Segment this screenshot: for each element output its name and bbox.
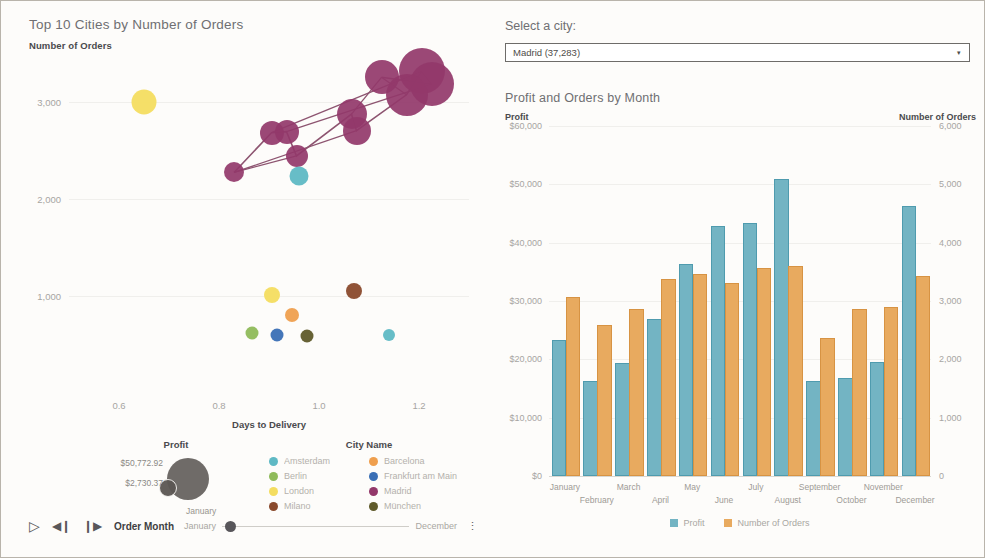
city-legend-item[interactable]: Barcelona [369, 456, 469, 466]
city-color-swatch-icon [369, 487, 378, 496]
bar-legend-item[interactable]: Number of Orders [724, 518, 809, 528]
scatter-bubble[interactable] [132, 90, 157, 115]
city-color-swatch-icon [269, 502, 278, 511]
profit-bar[interactable] [870, 362, 885, 476]
city-legend-label: München [384, 501, 421, 511]
scatter-bubble[interactable] [264, 287, 280, 303]
orders-bar[interactable] [725, 283, 740, 476]
bar-right-tick-label: 1,000 [939, 413, 962, 423]
playback-slider-track[interactable] [222, 520, 409, 532]
scatter-bubble[interactable] [300, 329, 313, 342]
orders-bar[interactable] [884, 307, 899, 476]
city-legend-item[interactable]: München [369, 501, 469, 511]
city-legend-item[interactable]: Milano [269, 501, 369, 511]
scatter-bubble[interactable] [245, 326, 258, 339]
bar-left-tick-label: $60,000 [509, 121, 542, 131]
profit-bar[interactable] [647, 319, 662, 476]
bar-legend-label: Number of Orders [737, 518, 809, 528]
bar-right-axis-title: Number of Orders [899, 112, 976, 122]
scatter-bubble[interactable] [285, 308, 299, 322]
step-forward-icon[interactable]: ❙▶ [83, 520, 102, 532]
bar-right-tick-label: 0 [939, 471, 944, 481]
profit-bar[interactable] [774, 179, 789, 476]
step-backward-icon[interactable]: ◀❙ [52, 520, 71, 532]
bar-month-label: July [748, 482, 763, 492]
profit-bar[interactable] [902, 206, 917, 476]
city-color-swatch-icon [369, 472, 378, 481]
bar-month-label: September [799, 482, 841, 492]
bar-month-label: November [864, 482, 903, 492]
orders-bar[interactable] [566, 297, 581, 476]
city-color-swatch-icon [369, 457, 378, 466]
scatter-bubble[interactable] [365, 60, 399, 94]
bar-month-label: March [617, 482, 641, 492]
scatter-bubble[interactable] [270, 328, 283, 341]
profit-legend-max-label: $50,772.92 [59, 458, 163, 468]
profit-bar[interactable] [838, 378, 853, 476]
scatter-bubble[interactable] [383, 329, 395, 341]
bar-right-tick-label: 5,000 [939, 179, 962, 189]
bar-month-label: February [580, 495, 614, 505]
bar-group [581, 126, 613, 476]
orders-bar[interactable] [757, 268, 772, 477]
orders-bar[interactable] [661, 279, 676, 476]
city-legend-item[interactable]: Madrid [369, 486, 469, 496]
scatter-y-tick-label: 1,000 [37, 290, 61, 301]
profit-bar[interactable] [743, 223, 758, 476]
bar-legend-label: Profit [683, 518, 704, 528]
scatter-bubble[interactable] [275, 120, 299, 144]
orders-bar[interactable] [820, 338, 835, 477]
playback-controls[interactable]: ▷ ◀❙ ❙▶ Order Month January December ⋮ [29, 514, 479, 538]
orders-bar[interactable] [629, 309, 644, 476]
scatter-bubble[interactable] [286, 145, 308, 167]
profit-bar[interactable] [615, 363, 630, 476]
orders-bar[interactable] [693, 274, 708, 476]
scatter-y-tick-label: 2,000 [37, 193, 61, 204]
play-icon[interactable]: ▷ [29, 519, 40, 533]
city-legend-item[interactable]: Berlin [269, 471, 369, 481]
bar-panel: Select a city: Madrid (37,283) ▾ Profit … [497, 1, 985, 558]
bar-group [676, 126, 708, 476]
bar-left-tick-label: $0 [532, 471, 542, 481]
scatter-bubble[interactable] [224, 162, 244, 182]
city-legend-label: Madrid [384, 486, 412, 496]
profit-bar[interactable] [583, 381, 598, 476]
playback-field-label: Order Month [114, 521, 174, 532]
orders-bar[interactable] [852, 309, 867, 476]
profit-bar[interactable] [806, 381, 821, 476]
city-legend-item[interactable]: Amsterdam [269, 456, 369, 466]
bar-chart-legend: ProfitNumber of Orders [549, 518, 931, 528]
chevron-down-icon[interactable]: ▾ [957, 49, 969, 57]
bar-legend-item[interactable]: Profit [670, 518, 704, 528]
city-color-swatch-icon [269, 487, 278, 496]
scatter-y-tick-label: 3,000 [37, 96, 61, 107]
profit-bar[interactable] [552, 340, 567, 476]
city-legend-label: London [284, 486, 314, 496]
city-legend-label: Barcelona [384, 456, 425, 466]
playback-slider-handle[interactable] [225, 521, 236, 532]
city-legend-label: Amsterdam [284, 456, 330, 466]
city-select-dropdown[interactable]: Madrid (37,283) ▾ [505, 43, 970, 62]
orders-bar[interactable] [916, 276, 931, 476]
scatter-bubble[interactable] [290, 166, 309, 185]
scatter-bubble[interactable] [346, 283, 362, 299]
city-legend-item[interactable]: Frankfurt am Main [369, 471, 469, 481]
bar-right-tick-label: 6,000 [939, 121, 962, 131]
more-options-icon[interactable]: ⋮ [467, 520, 479, 533]
city-legend-label: Frankfurt am Main [384, 471, 457, 481]
orders-bar[interactable] [597, 325, 612, 476]
scatter-x-tick-label: 0.8 [212, 400, 225, 411]
bar-group [549, 126, 581, 476]
city-legend-items: AmsterdamBarcelonaBerlinFrankfurt am Mai… [269, 456, 469, 516]
profit-bar[interactable] [711, 226, 726, 476]
city-legend-item[interactable]: London [269, 486, 369, 496]
scatter-bubble[interactable] [343, 117, 371, 145]
bar-plot-area: $00$10,0001,000$20,0002,000$30,0003,000$… [549, 126, 931, 476]
orders-bar[interactable] [788, 266, 803, 476]
bar-left-tick-label: $30,000 [509, 296, 542, 306]
profit-bar[interactable] [679, 264, 694, 476]
city-legend-label: Berlin [284, 471, 307, 481]
series-color-swatch-icon [670, 519, 678, 527]
city-color-swatch-icon [269, 457, 278, 466]
page-title: Top 10 Cities by Number of Orders [29, 17, 243, 32]
